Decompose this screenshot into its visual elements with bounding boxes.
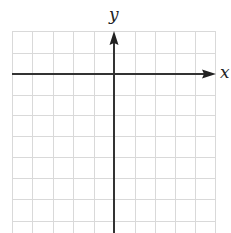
x-axis-arrow-icon bbox=[202, 70, 216, 79]
coordinate-plane bbox=[0, 0, 231, 233]
x-axis-label: x bbox=[220, 64, 230, 81]
y-axis-label: y bbox=[109, 6, 119, 23]
y-axis-arrow-icon bbox=[110, 31, 119, 45]
y-axis bbox=[110, 31, 119, 233]
